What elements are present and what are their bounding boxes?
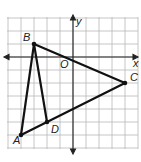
origin-label: O <box>60 58 69 70</box>
y-arrow-down-icon <box>71 149 76 154</box>
coordinate-plane-figure: ABCDOxy <box>0 0 141 162</box>
x-axis-label: x <box>132 57 139 69</box>
label-C: C <box>130 71 138 83</box>
y-arrow-up-icon <box>71 15 76 20</box>
label-A: A <box>12 134 20 146</box>
label-D: D <box>51 123 59 135</box>
point-B <box>32 42 37 47</box>
label-B: B <box>23 31 30 43</box>
point-D <box>45 120 50 125</box>
segment-BC <box>34 44 125 83</box>
point-C <box>123 81 128 86</box>
x-arrow-left-icon <box>4 55 9 60</box>
segment-AB <box>21 44 34 135</box>
y-axis-label: y <box>75 15 83 27</box>
